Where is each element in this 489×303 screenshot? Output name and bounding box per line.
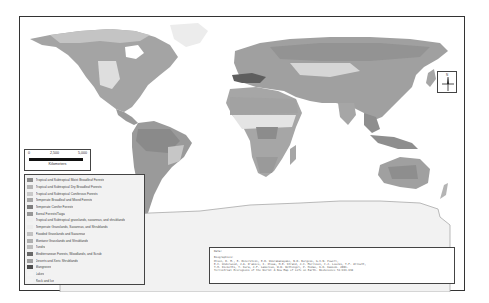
legend-label: Tropical and Subtropical Dry Broadleaf F… bbox=[36, 185, 102, 189]
scale-tick-0: 0 bbox=[28, 151, 30, 155]
legend-item: Montane Grasslands and Shrublands bbox=[27, 237, 142, 244]
legend-label: Mediterranean Forests, Woodlands, and Sc… bbox=[36, 252, 102, 256]
legend-item: Mangroves bbox=[27, 264, 142, 271]
scale-tick-1: 2,500 bbox=[50, 151, 59, 155]
legend-item: Tropical and Subtropical grasslands, sav… bbox=[27, 217, 142, 224]
legend-swatch bbox=[27, 212, 33, 216]
indonesia bbox=[370, 135, 418, 149]
biome-legend: Tropical and Subtropical Moist Broadleaf… bbox=[24, 174, 145, 285]
legend-item: Mediterranean Forests, Woodlands, and Sc… bbox=[27, 251, 142, 258]
legend-swatch bbox=[27, 239, 33, 243]
legend-swatch bbox=[27, 192, 33, 196]
legend-label: Temperate Broadleaf and Mixed Forests bbox=[36, 198, 93, 202]
citation-title: Data: bbox=[214, 250, 450, 253]
legend-swatch bbox=[27, 205, 33, 209]
data-citation: Data: Biographies: Olson, D. M., E. Dine… bbox=[209, 247, 455, 284]
greenland bbox=[170, 23, 208, 47]
scale-unit: Kilometers bbox=[25, 162, 90, 166]
legend-item: Temperate Conifer Forests bbox=[27, 204, 142, 211]
legend-item: Deserts and Xeric Shrublands bbox=[27, 257, 142, 264]
sahara bbox=[230, 97, 298, 115]
legend-swatch bbox=[27, 232, 33, 236]
compass-icon bbox=[438, 72, 458, 94]
legend-item: Tropical and Subtropical Moist Broadleaf… bbox=[27, 177, 142, 184]
north-arrow: N bbox=[437, 71, 457, 93]
congo bbox=[256, 127, 278, 139]
legend-label: Temperate Conifer Forests bbox=[36, 205, 74, 209]
legend-item: Lakes bbox=[27, 271, 142, 278]
legend-item: Rock and Ice bbox=[27, 277, 142, 284]
legend-label: Rock and Ice bbox=[36, 279, 55, 283]
legend-label: Lakes bbox=[36, 272, 45, 276]
legend-label: Flooded Grasslands and Savannas bbox=[36, 232, 86, 236]
scale-tick-2: 5,000 bbox=[78, 151, 87, 155]
legend-label: Tropical and Subtropical grasslands, sav… bbox=[36, 218, 126, 222]
legend-item: Tropical and Subtropical Dry Broadleaf F… bbox=[27, 184, 142, 191]
legend-item: Temperate Broadleaf and Mixed Forests bbox=[27, 197, 142, 204]
legend-item: Tundra bbox=[27, 244, 142, 251]
citation-line: Terrestrial Ecoregions of the World: A N… bbox=[214, 269, 450, 272]
legend-item: Flooded Grasslands and Savannas bbox=[27, 231, 142, 238]
legend-swatch bbox=[27, 225, 33, 229]
legend-label: Deserts and Xeric Shrublands bbox=[36, 259, 78, 263]
legend-label: Tundra bbox=[36, 245, 46, 249]
legend-item: Boreal Forests/Taiga bbox=[27, 210, 142, 217]
legend-label: Montane Grasslands and Shrublands bbox=[36, 239, 89, 243]
legend-label: Temperate Grasslands, Savannas, and Shru… bbox=[36, 225, 108, 229]
legend-swatch bbox=[27, 279, 33, 283]
legend-swatch bbox=[27, 265, 33, 269]
scale-ticks: 0 2,500 5,000 bbox=[28, 151, 87, 157]
legend-swatch bbox=[27, 245, 33, 249]
legend-label: Boreal Forests/Taiga bbox=[36, 212, 65, 216]
legend-swatch bbox=[27, 178, 33, 182]
legend-item: Temperate Grasslands, Savannas, and Shru… bbox=[27, 224, 142, 231]
legend-item: Tropical and Subtropical Coniferous Fore… bbox=[27, 190, 142, 197]
australia-outback bbox=[388, 165, 418, 179]
legend-swatch bbox=[27, 198, 33, 202]
legend-swatch bbox=[27, 259, 33, 263]
new-zealand bbox=[440, 183, 448, 199]
legend-swatch bbox=[27, 185, 33, 189]
scale-bar: 0 2,500 5,000 Kilometers bbox=[24, 149, 91, 171]
japan bbox=[426, 69, 436, 87]
legend-label: Tropical and Subtropical Coniferous Fore… bbox=[36, 192, 98, 196]
canadian-tundra bbox=[50, 29, 150, 43]
madagascar bbox=[290, 145, 296, 165]
legend-label: Tropical and Subtropical Moist Broadleaf… bbox=[36, 178, 105, 182]
central-america bbox=[116, 109, 138, 125]
scale-line bbox=[29, 158, 83, 161]
legend-swatch bbox=[27, 252, 33, 256]
india bbox=[338, 103, 356, 125]
legend-swatch bbox=[27, 272, 33, 276]
legend-swatch bbox=[27, 218, 33, 222]
legend-label: Mangroves bbox=[36, 265, 52, 269]
sahel-savanna bbox=[232, 115, 296, 129]
